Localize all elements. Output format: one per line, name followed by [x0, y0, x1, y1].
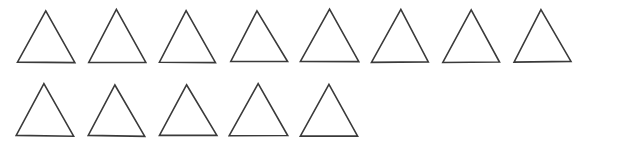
- triangle-shape: [159, 85, 216, 136]
- triangle-shape: [300, 84, 357, 136]
- triangle-shape: [300, 9, 358, 61]
- triangle-shape: [18, 11, 75, 63]
- triangle-shape: [88, 85, 145, 136]
- triangle-shape: [16, 84, 73, 136]
- triangle-shape: [514, 10, 571, 63]
- triangle-group-svg: [0, 0, 620, 148]
- triangle-shape: [443, 10, 500, 63]
- triangle-shape: [159, 11, 215, 63]
- triangle-row: [16, 84, 357, 137]
- triangle-shape: [371, 9, 428, 62]
- triangle-shape: [231, 11, 288, 62]
- triangle-shape: [229, 84, 288, 136]
- triangle-row: [18, 9, 571, 62]
- triangle-figure-canvas: [0, 0, 620, 148]
- triangle-shape: [89, 9, 146, 62]
